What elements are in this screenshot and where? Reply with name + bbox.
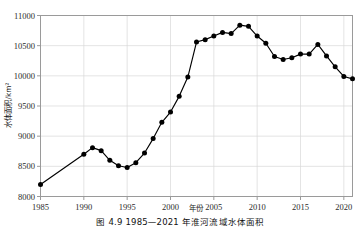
data-point bbox=[81, 152, 86, 157]
data-point bbox=[246, 24, 251, 29]
y-tick-label: 10000 bbox=[14, 71, 35, 81]
figure-caption: 图 4.9 1985—2021 年淮河流域水体面积 bbox=[0, 215, 361, 227]
x-axis-tick-marks bbox=[41, 197, 344, 201]
data-point bbox=[350, 76, 355, 81]
x-tick-label: 2010 bbox=[249, 202, 266, 212]
data-point bbox=[142, 151, 147, 156]
x-tick-label: 2020 bbox=[335, 202, 352, 212]
data-point bbox=[203, 37, 208, 42]
data-point bbox=[177, 94, 182, 99]
data-point bbox=[185, 75, 190, 80]
data-point bbox=[272, 54, 277, 59]
x-tick-label: 2005 bbox=[205, 202, 222, 212]
data-point bbox=[151, 136, 156, 141]
x-tick-label: 1990 bbox=[75, 202, 92, 212]
y-axis-tick-labels: 8000850090009500100001050011000 bbox=[14, 11, 35, 202]
y-tick-label: 11000 bbox=[14, 11, 35, 21]
x-tick-label: 1995 bbox=[119, 202, 136, 212]
x-tick-label: 1985 bbox=[32, 202, 49, 212]
data-point bbox=[255, 34, 260, 39]
data-point bbox=[307, 52, 312, 57]
data-point bbox=[38, 182, 43, 187]
data-point bbox=[168, 110, 173, 115]
data-point bbox=[324, 53, 329, 58]
data-point bbox=[229, 31, 234, 36]
x-axis-title: 年份 bbox=[189, 203, 204, 213]
data-point bbox=[133, 160, 138, 165]
data-point bbox=[281, 57, 286, 62]
line-chart: 8000850090009500100001050011000 19851990… bbox=[0, 0, 361, 215]
y-tick-label: 8500 bbox=[18, 161, 35, 171]
x-tick-label: 2000 bbox=[162, 202, 179, 212]
data-point bbox=[220, 30, 225, 35]
data-series-line bbox=[41, 25, 353, 184]
y-tick-label: 9000 bbox=[18, 131, 35, 141]
data-point bbox=[116, 163, 121, 168]
data-point-markers bbox=[38, 23, 355, 187]
data-point bbox=[341, 74, 346, 79]
y-tick-label: 8000 bbox=[18, 192, 35, 202]
data-point bbox=[298, 52, 303, 57]
data-point bbox=[289, 55, 294, 60]
data-point bbox=[237, 23, 242, 28]
data-point bbox=[90, 145, 95, 150]
horizontal-gridlines bbox=[41, 46, 353, 167]
y-tick-label: 9500 bbox=[18, 101, 35, 111]
data-point bbox=[159, 120, 164, 125]
data-point bbox=[333, 64, 338, 69]
data-point bbox=[99, 148, 104, 153]
data-point bbox=[211, 34, 216, 39]
y-axis-title: 水体面积/km² bbox=[3, 82, 13, 127]
y-axis-tick-marks bbox=[37, 16, 41, 197]
x-tick-label: 2015 bbox=[292, 202, 309, 212]
figure-container: 8000850090009500100001050011000 19851990… bbox=[0, 0, 361, 230]
data-point bbox=[107, 158, 112, 163]
y-tick-label: 10500 bbox=[14, 41, 35, 51]
data-point bbox=[315, 42, 320, 47]
data-point bbox=[263, 41, 268, 46]
data-point bbox=[125, 165, 130, 170]
data-point bbox=[194, 40, 199, 45]
